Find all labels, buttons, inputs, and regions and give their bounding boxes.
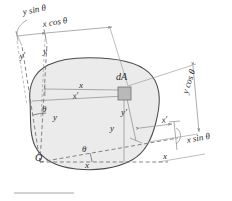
label-origin-O: O <box>35 153 42 163</box>
figure-container: y sin θ x cos θ y′ y dA x x′ θ y y′ y y … <box>0 0 232 201</box>
label-y-prime-mid: y′ <box>121 108 127 117</box>
label-theta-left: θ <box>42 105 46 114</box>
diagram-canvas <box>0 0 232 201</box>
label-x-axis-right: x <box>163 152 167 161</box>
label-x-center: x <box>79 81 83 90</box>
x-sin-theta-leader <box>176 128 181 144</box>
dA-element <box>118 87 131 100</box>
label-x-bottom: x <box>85 161 89 170</box>
label-y-left: y <box>53 113 57 122</box>
x-cos-theta-dim-line <box>46 27 112 33</box>
x-sin-theta-dim-line <box>174 122 177 150</box>
label-y-prime-left: y′ <box>19 51 26 61</box>
y-sin-theta-leader <box>17 20 27 34</box>
y-sin-theta-dim-line <box>17 33 45 36</box>
label-x-prime-center: x′ <box>72 91 79 101</box>
label-y-mid: y <box>110 124 114 133</box>
label-theta-bottom: θ <box>82 145 86 154</box>
y-sin-theta-tick-right <box>44 29 46 39</box>
label-dA: dA <box>116 72 127 82</box>
x-sin-theta-tick-top <box>169 121 180 122</box>
label-x-prime-right: x′ <box>161 115 168 125</box>
label-y-top-left: y <box>43 47 47 56</box>
